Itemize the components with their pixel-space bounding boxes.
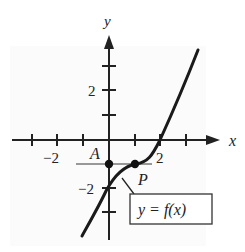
point-a <box>105 160 113 168</box>
y-axis-label: y <box>102 13 111 29</box>
x-tick-label-2: 2 <box>156 150 164 166</box>
y-tick-label-neg2: −2 <box>78 181 94 197</box>
graph-canvas: y x −2 2 2 −2 A P y = f(x) <box>0 0 245 252</box>
y-axis-arrow-icon <box>104 35 114 49</box>
label-leader-line <box>122 178 134 194</box>
point-p-label: P <box>137 171 148 188</box>
point-p <box>131 160 139 168</box>
point-a-label: A <box>89 145 100 162</box>
y-tick-label-2: 2 <box>88 83 96 99</box>
x-tick-label-neg2: −2 <box>43 150 59 166</box>
function-graph: y x −2 2 2 −2 A P y = f(x) <box>0 0 245 252</box>
curve-label: y = f(x) <box>136 201 186 219</box>
x-axis-label: x <box>228 132 236 149</box>
x-axis-arrow-icon <box>206 135 220 145</box>
